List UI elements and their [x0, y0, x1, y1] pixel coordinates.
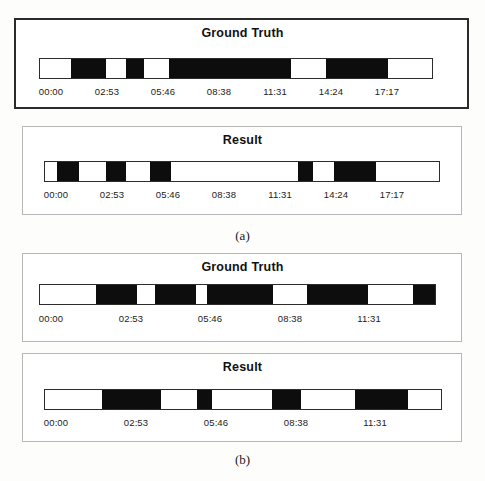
timeline-segment [71, 59, 106, 78]
axis-tick-label: 02:53 [100, 189, 124, 200]
axis-tick-label: 11:31 [357, 313, 381, 324]
panel-title: Ground Truth [0, 26, 485, 40]
axis-tick-label: 00:00 [39, 86, 63, 97]
timeline-segment [106, 162, 126, 181]
time-axis: 00:0002:5305:4608:3811:3114:2417:17 [0, 189, 485, 203]
panel-title: Ground Truth [0, 260, 485, 274]
axis-tick-label: 14:24 [324, 189, 348, 200]
timeline-segment [272, 390, 301, 409]
timeline-segment [207, 285, 273, 304]
time-axis: 00:0002:5305:4608:3811:31 [0, 417, 485, 431]
axis-tick-label: 17:17 [375, 86, 399, 97]
timeline-bar-result [44, 161, 440, 182]
timeline-segment [197, 390, 212, 409]
timeline-bar-result [44, 389, 442, 410]
axis-tick-label: 11:31 [268, 189, 292, 200]
axis-tick-label: 02:53 [124, 417, 148, 428]
timeline-bar-ground-truth [39, 58, 433, 79]
axis-tick-label: 11:31 [263, 86, 287, 97]
subfigure-caption: (a) [0, 228, 485, 244]
timeline-segment [326, 59, 388, 78]
axis-tick-label: 08:38 [278, 313, 302, 324]
time-axis: 00:0002:5305:4608:3811:3114:2417:17 [0, 86, 485, 100]
panel-title: Result [0, 360, 485, 374]
axis-tick-label: 14:24 [319, 86, 343, 97]
axis-tick-label: 05:46 [198, 313, 222, 324]
timeline-segment [102, 390, 161, 409]
timeline-segment [126, 59, 144, 78]
timeline-segment [150, 162, 172, 181]
timeline-segment [355, 390, 409, 409]
panel-title: Result [0, 133, 485, 147]
axis-tick-label: 02:53 [119, 313, 143, 324]
timeline-segment [155, 285, 196, 304]
figure-root: Ground Truth00:0002:5305:4608:3811:3114:… [0, 0, 485, 481]
timeline-segment [96, 285, 138, 304]
axis-tick-label: 05:46 [151, 86, 175, 97]
timeline-segment [307, 285, 368, 304]
time-axis: 00:0002:5305:4608:3811:31 [0, 313, 485, 327]
axis-tick-label: 05:46 [204, 417, 228, 428]
timeline-segment [169, 59, 292, 78]
timeline-segment [334, 162, 377, 181]
subfigure-caption: (b) [0, 452, 485, 468]
axis-tick-label: 08:38 [207, 86, 231, 97]
axis-tick-label: 00:00 [39, 313, 63, 324]
axis-tick-label: 11:31 [363, 417, 387, 428]
timeline-segment [298, 162, 314, 181]
axis-tick-label: 05:46 [156, 189, 180, 200]
axis-tick-label: 00:00 [44, 417, 68, 428]
timeline-segment [413, 285, 436, 304]
axis-tick-label: 08:38 [212, 189, 236, 200]
timeline-segment [57, 162, 80, 181]
axis-tick-label: 00:00 [44, 189, 68, 200]
timeline-bar-ground-truth [39, 284, 436, 305]
axis-tick-label: 17:17 [380, 189, 404, 200]
axis-tick-label: 08:38 [284, 417, 308, 428]
axis-tick-label: 02:53 [95, 86, 119, 97]
